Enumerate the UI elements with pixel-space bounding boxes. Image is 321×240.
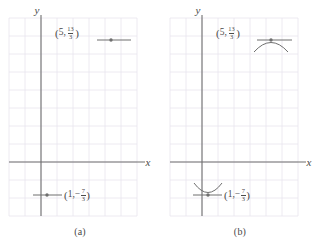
concave-down-arc-b <box>254 43 288 53</box>
label-y-fraction: 13 3 <box>227 26 235 40</box>
panel-b-plot: x y <box>160 0 321 240</box>
y-axis-label-a: y <box>34 4 40 16</box>
grid-lines-a <box>9 18 137 216</box>
panel-b: x y ( 5 , 13 3 ) ( 1 , − 7 3 ) <box>160 0 320 240</box>
label-y-fraction: 13 3 <box>66 26 74 40</box>
fraction-denominator: 3 <box>229 33 234 41</box>
label-close-paren: ) <box>236 28 240 39</box>
label-close-paren: ) <box>86 190 90 201</box>
label-y-sign: − <box>235 190 240 200</box>
y-axis-label-b: y <box>195 4 201 16</box>
two-panel-graph-figure: x y ( 5 , 13 3 ) ( 1 , − 7 3 ) <box>0 0 321 240</box>
lower-point-label-a: ( 1 , − 7 3 ) <box>64 188 90 202</box>
x-axis-label-a: x <box>145 156 151 168</box>
label-y-fraction: 7 3 <box>81 188 86 202</box>
fraction-denominator: 3 <box>241 195 246 203</box>
point-marker-lower-a <box>45 193 48 196</box>
panel-a-caption: (a) <box>0 226 160 237</box>
fraction-numerator: 7 <box>241 188 246 195</box>
panel-a: x y ( 5 , 13 3 ) ( 1 , − 7 3 ) <box>0 0 160 240</box>
fraction-numerator: 13 <box>66 26 74 33</box>
point-marker-lower-b <box>206 193 209 196</box>
lower-point-label-b: ( 1 , − 7 3 ) <box>224 188 250 202</box>
panel-a-plot: x y <box>0 0 160 240</box>
label-close-paren: ) <box>75 28 79 39</box>
fraction-numerator: 13 <box>227 26 235 33</box>
upper-point-label-a: ( 5 , 13 3 ) <box>55 26 79 40</box>
label-y-sign: − <box>75 190 80 200</box>
fraction-denominator: 3 <box>81 195 86 203</box>
x-axis-label-b: x <box>306 156 312 168</box>
point-marker-upper-b <box>269 38 272 41</box>
point-marker-upper-a <box>109 38 112 41</box>
label-close-paren: ) <box>246 190 250 201</box>
grid-lines-b <box>170 18 298 216</box>
panel-b-caption: (b) <box>160 226 320 237</box>
fraction-denominator: 3 <box>68 33 73 41</box>
upper-point-label-b: ( 5 , 13 3 ) <box>216 26 240 40</box>
fraction-numerator: 7 <box>81 188 86 195</box>
label-y-fraction: 7 3 <box>241 188 246 202</box>
